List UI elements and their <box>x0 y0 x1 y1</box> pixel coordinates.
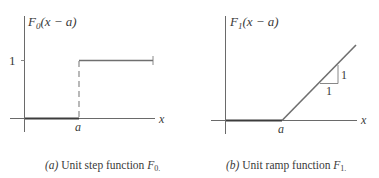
panel-b-ramp-function: F1(x − a) 1 1 a x (b) Unit ramp function… <box>211 14 367 173</box>
panel-a-caption: (a) Unit step function F0. <box>45 159 160 173</box>
panel-a-step-function: F0(x − a) 1 a x (a) Unit step function F… <box>9 14 165 173</box>
panel-b-slope-run-label: 1 <box>326 84 332 98</box>
panel-a-x-axis-label: x <box>158 112 165 126</box>
panel-b-xtick-label: a <box>278 122 284 136</box>
panel-b-x-axis-label: x <box>360 113 367 127</box>
figure: F0(x − a) 1 a x (a) Unit step function F… <box>0 0 379 178</box>
panel-a-y-axis-label: F0(x − a) <box>27 14 77 31</box>
panel-a-xtick-label: a <box>75 120 81 134</box>
panel-a-ytick-label: 1 <box>9 53 16 68</box>
panel-b-slope-rise-label: 1 <box>341 68 347 82</box>
panel-b-caption: (b) Unit ramp function F1. <box>226 159 346 173</box>
panel-b-y-axis-label: F1(x − a) <box>229 14 279 31</box>
panel-b-ramp-line <box>282 45 356 121</box>
